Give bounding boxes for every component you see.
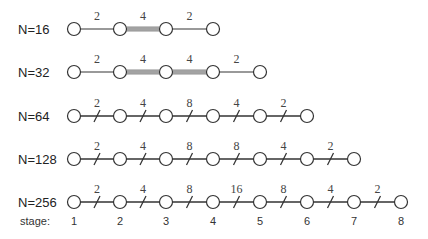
stage-axis-label: stage: [20, 215, 50, 227]
edge-width-label: 4 [187, 52, 193, 66]
stage-node [160, 196, 173, 209]
stage-node [68, 153, 81, 166]
edge-width-label: 4 [140, 139, 146, 153]
edge-width-label: 8 [187, 182, 193, 196]
stage-node [254, 196, 267, 209]
stage-node [114, 23, 127, 36]
stage-node [254, 153, 267, 166]
edge-width-label: 2 [328, 139, 334, 153]
stage-node [207, 110, 220, 123]
stage-number: 1 [71, 215, 77, 227]
stage-node [68, 66, 81, 79]
stage-node [207, 196, 220, 209]
stage-node [254, 110, 267, 123]
row-label: N=256 [18, 195, 57, 210]
edge-width-label: 4 [234, 96, 240, 110]
edge-width-label: 2 [375, 182, 381, 196]
stage-number: 3 [163, 215, 169, 227]
row-label: N=16 [18, 22, 49, 37]
stage-node [68, 196, 81, 209]
edge-width-label: 4 [281, 139, 287, 153]
edge-width-label: 2 [94, 96, 100, 110]
edge-width-label: 4 [328, 182, 334, 196]
stage-node [68, 23, 81, 36]
stage-node [348, 196, 361, 209]
edge-width-label: 8 [187, 139, 193, 153]
stage-node [160, 110, 173, 123]
stage-node [68, 110, 81, 123]
stage-number: 6 [304, 215, 310, 227]
stage-node [207, 23, 220, 36]
stage-node [348, 153, 361, 166]
edge-width-label: 4 [140, 9, 146, 23]
stage-node [114, 66, 127, 79]
stage-node [114, 153, 127, 166]
edge-width-label: 2 [281, 96, 287, 110]
stage-node [114, 110, 127, 123]
edge-width-label: 8 [234, 139, 240, 153]
stage-node [301, 110, 314, 123]
stage-number: 2 [117, 215, 123, 227]
stage-node [254, 66, 267, 79]
edge-width-label: 2 [94, 182, 100, 196]
stage-node [114, 196, 127, 209]
pipeline-diagram: N=16242N=322442N=6424842N=128248842N=256… [0, 0, 428, 239]
edge-width-label: 2 [94, 139, 100, 153]
edge-width-label: 2 [94, 52, 100, 66]
stage-number: 7 [351, 215, 357, 227]
stage-node [301, 153, 314, 166]
edge-width-label: 4 [140, 182, 146, 196]
edge-width-label: 8 [281, 182, 287, 196]
row-label: N=64 [18, 109, 49, 124]
edge-width-label: 4 [140, 52, 146, 66]
stage-number: 8 [398, 215, 404, 227]
edge-width-label: 8 [187, 96, 193, 110]
stage-node [301, 196, 314, 209]
stage-node [207, 66, 220, 79]
edge-width-label: 2 [187, 9, 193, 23]
stage-number: 5 [257, 215, 263, 227]
stage-number: 4 [210, 215, 216, 227]
stage-node [160, 23, 173, 36]
stage-node [207, 153, 220, 166]
edge-width-label: 16 [231, 182, 243, 196]
edge-width-label: 2 [94, 9, 100, 23]
row-label: N=128 [18, 152, 57, 167]
stage-node [160, 66, 173, 79]
edge-width-label: 2 [234, 52, 240, 66]
stage-diagram-svg: N=16242N=322442N=6424842N=128248842N=256… [0, 0, 428, 239]
edge-width-label: 4 [140, 96, 146, 110]
stage-node [160, 153, 173, 166]
stage-node [395, 196, 408, 209]
row-label: N=32 [18, 65, 49, 80]
